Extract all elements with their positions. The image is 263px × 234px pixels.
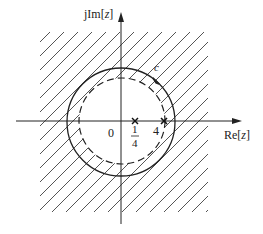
imag-label-suffix: ] <box>109 7 113 21</box>
pole-quarter-denominator: 4 <box>132 138 138 149</box>
imag-label-prefix: jIm[ <box>84 7 105 21</box>
z-plane-diagram: jIm[z] Re[z] 0 1 4 4 c <box>0 0 263 234</box>
contour-label: c <box>154 62 159 73</box>
pole-four-label: 4 <box>153 125 159 137</box>
pole-quarter-numerator: 1 <box>132 124 138 135</box>
real-label-prefix: Re[ <box>224 128 241 142</box>
real-label-suffix: ] <box>246 128 250 142</box>
origin-label: 0 <box>108 127 114 139</box>
real-axis-arrow-icon <box>232 118 242 124</box>
hatched-region <box>0 32 263 212</box>
real-axis-label: Re[z] <box>224 129 250 141</box>
contour-direction-arrow-icon <box>153 78 159 84</box>
imag-axis <box>118 12 124 224</box>
imag-axis-label: jIm[z] <box>84 8 113 20</box>
imag-axis-arrow-icon <box>118 12 124 22</box>
real-axis <box>16 118 242 124</box>
diagram-canvas <box>0 0 263 234</box>
